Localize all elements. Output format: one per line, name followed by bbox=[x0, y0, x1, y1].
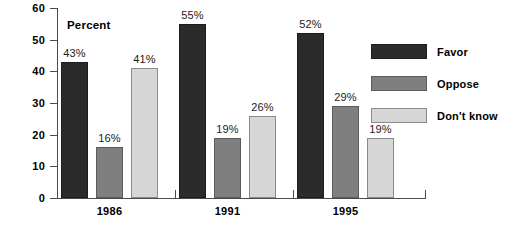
bar-value-label: 43% bbox=[55, 48, 94, 59]
legend-label-favor: Favor bbox=[437, 46, 468, 58]
x-axis-category-label: 1986 bbox=[41, 205, 178, 217]
y-axis-tick-label: 0 bbox=[5, 193, 45, 204]
legend-swatch-dont-know bbox=[371, 108, 427, 123]
legend-label-dont-know: Don't know bbox=[437, 110, 498, 122]
x-axis-category-label: 1991 bbox=[159, 205, 296, 217]
y-axis-tick bbox=[50, 40, 57, 41]
y-axis-tick bbox=[50, 135, 57, 136]
bar-value-label: 29% bbox=[326, 92, 365, 103]
plot-area bbox=[57, 8, 425, 198]
x-axis-end-tick bbox=[425, 190, 426, 199]
x-axis-line bbox=[57, 198, 426, 199]
bar bbox=[297, 33, 324, 198]
y-axis-tick-label: 10 bbox=[5, 161, 45, 172]
bar-value-label: 19% bbox=[208, 124, 247, 135]
bar-value-label: 26% bbox=[243, 102, 282, 113]
bar bbox=[96, 147, 123, 198]
y-axis-tick-label: 40 bbox=[5, 66, 45, 77]
y-axis-tick bbox=[50, 71, 57, 72]
legend-label-oppose: Oppose bbox=[437, 78, 479, 90]
bar-value-label: 19% bbox=[361, 124, 400, 135]
bar bbox=[179, 24, 206, 198]
bar bbox=[131, 68, 158, 198]
y-axis-tick bbox=[50, 198, 57, 199]
x-axis-category-label: 1995 bbox=[277, 205, 414, 217]
legend-swatch-favor bbox=[371, 44, 427, 59]
bar bbox=[61, 62, 88, 198]
y-axis-tick bbox=[50, 166, 57, 167]
bar-chart: 0102030405060 Percent 43%16%41%55%19%26%… bbox=[0, 0, 519, 239]
bar bbox=[249, 116, 276, 198]
bar bbox=[332, 106, 359, 198]
y-axis-tick-label: 50 bbox=[5, 35, 45, 46]
y-axis-tick-label: 30 bbox=[5, 98, 45, 109]
y-axis-tick-label: 60 bbox=[5, 3, 45, 14]
bar-value-label: 52% bbox=[291, 19, 330, 30]
bar-value-label: 41% bbox=[125, 54, 164, 65]
bar-value-label: 55% bbox=[173, 10, 212, 21]
bar bbox=[367, 138, 394, 198]
legend-swatch-oppose bbox=[371, 76, 427, 91]
y-axis-tick-label: 20 bbox=[5, 130, 45, 141]
bar-value-label: 16% bbox=[90, 133, 129, 144]
y-axis-tick bbox=[50, 103, 57, 104]
y-axis-tick bbox=[50, 8, 57, 9]
bar bbox=[214, 138, 241, 198]
